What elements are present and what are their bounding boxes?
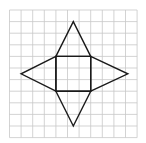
triangle-left xyxy=(21,56,56,91)
pyramid-net-diagram xyxy=(0,0,146,143)
triangle-bottom xyxy=(56,91,91,126)
triangle-right xyxy=(91,56,128,91)
square-base xyxy=(56,56,91,91)
triangle-top xyxy=(56,22,91,57)
grid xyxy=(10,10,138,138)
pyramid-net xyxy=(21,22,128,126)
